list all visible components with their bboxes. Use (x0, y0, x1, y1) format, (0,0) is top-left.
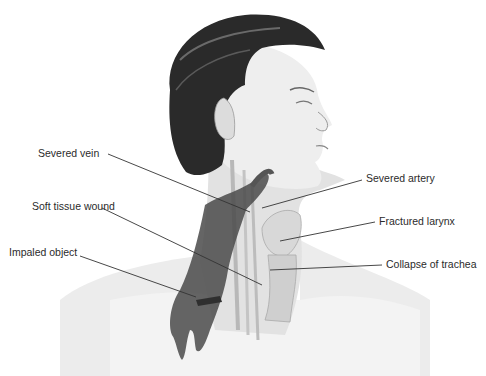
label-impaled-object: Impaled object (9, 246, 77, 258)
label-severed-artery: Severed artery (366, 172, 435, 184)
label-collapse-of-trachea: Collapse of trachea (386, 258, 476, 270)
illustration (0, 0, 486, 376)
label-soft-tissue-wound: Soft tissue wound (32, 200, 115, 212)
label-fractured-larynx: Fractured larynx (379, 215, 455, 227)
label-severed-vein: Severed vein (38, 147, 99, 159)
neck-injuries-figure: Severed vein Soft tissue wound Impaled o… (0, 0, 486, 376)
